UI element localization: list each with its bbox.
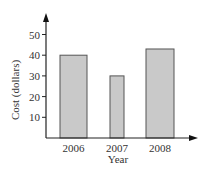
bars-group	[60, 49, 174, 138]
y-tick-label: 30	[29, 70, 41, 82]
y-axis-arrow-icon	[43, 13, 49, 22]
y-axis-title: Cost (dollars)	[9, 60, 22, 121]
x-axis-arrow-icon	[189, 135, 198, 141]
bar-chart: 1020304050 200620072008 Year Cost (dolla…	[0, 0, 202, 172]
y-tick-label: 10	[29, 111, 41, 123]
x-tick-label: 2006	[63, 142, 86, 154]
bar-2006	[60, 55, 87, 138]
bar-2008	[146, 49, 174, 138]
y-tick-label: 20	[29, 91, 41, 103]
x-axis-title: Year	[108, 153, 129, 165]
y-ticks-group: 1020304050	[29, 29, 46, 124]
x-tick-label: 2008	[149, 142, 172, 154]
bar-2007	[110, 76, 124, 138]
y-tick-label: 50	[29, 29, 41, 41]
y-tick-label: 40	[29, 49, 41, 61]
